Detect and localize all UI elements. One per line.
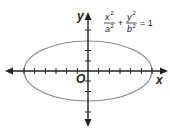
x-axis-left-arrow-icon: [5, 68, 13, 75]
eq-y-numerator: y: [126, 12, 132, 22]
y-axis-down-arrow-icon: [85, 119, 92, 127]
y-axis-up-arrow-icon: [85, 12, 92, 20]
ellipse-equation: x 2 a 2 + y 2 b 2 = 1: [104, 10, 153, 34]
y-axis-label: y: [76, 9, 85, 23]
eq-plus: +: [118, 18, 123, 28]
x-axis-label: x: [155, 73, 164, 87]
eq-x-numerator: x: [104, 12, 110, 22]
eq-x-num-exponent: 2: [111, 10, 115, 16]
x-axis: [5, 68, 168, 75]
y-axis: [85, 12, 92, 127]
eq-x-denominator: a: [105, 24, 110, 34]
ellipse-diagram: y x O x 2 a 2 + y 2 b 2 = 1: [0, 0, 170, 130]
eq-equals-one: = 1: [140, 18, 153, 28]
eq-y-denominator: b: [127, 24, 132, 34]
origin-label: O: [76, 72, 86, 86]
eq-y-num-exponent: 2: [133, 10, 137, 16]
